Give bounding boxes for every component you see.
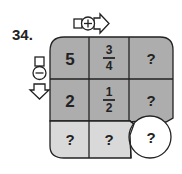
cell-r2c3: ? [143,92,159,109]
fraction-denominator: 4 [106,60,113,72]
fraction-denominator: 2 [106,102,113,114]
plus-arrow-icon [74,14,109,33]
cell-r3c2[interactable]: ? [101,131,117,148]
cell-r2c1: 2 [62,92,78,112]
cell-r1c1: 5 [62,50,78,70]
puzzle-grid-graphic [0,0,182,174]
cell-r2c2: 1 2 [101,86,117,114]
cell-r3c3[interactable]: ? [143,129,159,146]
fraction-numerator: 1 [106,86,113,98]
cell-r1c3: ? [143,50,159,67]
cell-r1c2: 3 4 [101,44,117,72]
cell-r3c1[interactable]: ? [62,131,78,148]
fraction-numerator: 3 [106,44,113,56]
minus-arrow-icon [30,57,49,99]
